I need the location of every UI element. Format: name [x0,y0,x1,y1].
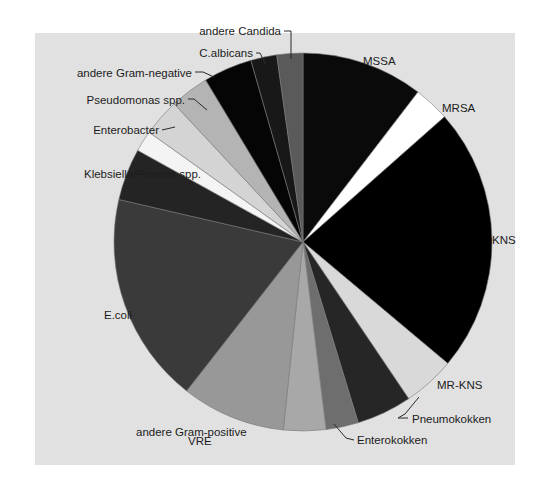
slice-label-mssa: MSSA [363,55,396,67]
slice-label-andere-candida: andere Candida [199,25,281,37]
slice-label-andere-gram-negative: andere Gram-negative [77,67,192,79]
pointer-line-andere-gram-negative [195,72,214,77]
slice-label-vre: VRE [188,435,212,447]
slice-label-klebsiella-proteus-spp: Klebsiella/Proteus spp. [84,168,201,180]
slice-label-mrsa: MRSA [442,102,476,114]
slice-label-enterokokken: Enterokokken [357,434,427,446]
slice-label-kns: KNS [492,234,516,246]
pie-chart: andere CandidaC.albicansandere Gram-nega… [0,0,534,479]
slice-label-mr-kns: MR-KNS [437,379,483,391]
slice-label-pseudomonas-spp: Pseudomonas spp. [87,94,185,106]
figure: andere CandidaC.albicansandere Gram-nega… [0,0,534,479]
slice-label-enterobacter: Enterobacter [93,124,159,136]
slice-label-c-albicans: C.albicans [199,47,253,59]
slice-label-e-coli: E.coli [104,309,132,321]
slice-label-pneumokokken: Pneumokokken [412,413,491,425]
